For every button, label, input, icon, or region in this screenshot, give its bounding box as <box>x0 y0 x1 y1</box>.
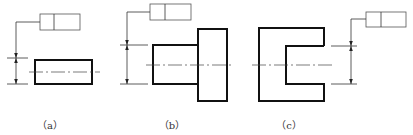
part-outline-c <box>259 28 324 101</box>
feature-control-frame-a <box>40 14 80 30</box>
arrow-down-icon <box>349 41 353 46</box>
panel-label-c: （c） <box>274 117 304 132</box>
arrow-up-icon <box>14 58 18 63</box>
leader-line-b <box>127 12 150 45</box>
panel-c <box>252 12 406 101</box>
arrow-down-icon <box>14 53 18 58</box>
feature-control-frame-b <box>150 4 191 20</box>
arrow-up-icon <box>125 45 129 50</box>
panel-a <box>7 14 100 84</box>
arrow-down-icon <box>349 79 353 84</box>
panel-label-b: （b） <box>157 117 187 132</box>
tolerance-diagram <box>0 0 413 135</box>
feature-control-frame-c <box>366 12 406 27</box>
part-shaft-b <box>153 45 198 84</box>
arrow-down-icon <box>125 79 129 84</box>
arrow-down-icon <box>125 40 129 45</box>
panel-b <box>120 4 234 101</box>
leader-line-a <box>16 22 40 58</box>
arrow-up-icon <box>349 46 353 51</box>
arrow-down-icon <box>14 79 18 84</box>
panel-label-a: （a） <box>35 117 65 132</box>
leader-line-c <box>351 19 366 46</box>
